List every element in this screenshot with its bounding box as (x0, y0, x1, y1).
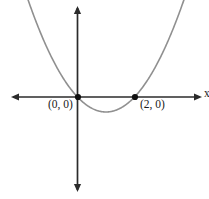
point-dot-root-two (132, 94, 138, 100)
point-label-origin: (0, 0) (48, 99, 73, 111)
parabola-figure: (0, 0) (2, 0) x (0, 0, 209, 199)
graph-canvas (0, 0, 209, 199)
point-dot-origin (75, 94, 81, 100)
y-axis-arrow-down-icon (74, 184, 81, 192)
x-axis-arrow-right-icon (194, 93, 202, 100)
point-label-root-two: (2, 0) (140, 99, 165, 111)
x-axis (11, 93, 202, 100)
x-axis-arrow-left-icon (11, 93, 19, 100)
parabola-curve (26, 0, 185, 112)
x-axis-label: x (204, 88, 209, 100)
y-axis-arrow-up-icon (74, 6, 81, 14)
